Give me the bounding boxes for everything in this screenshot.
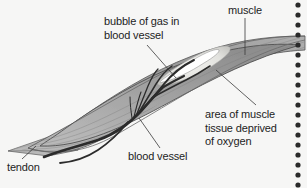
edge-dot — [295, 22, 300, 27]
edge-dot — [295, 82, 300, 87]
label-muscle: muscle — [228, 4, 262, 18]
edge-dot — [295, 162, 300, 167]
figure-page: bubble of gas in blood vessel muscle are… — [0, 0, 307, 188]
edge-dot-rail — [295, 2, 300, 187]
edge-dot — [295, 102, 300, 107]
edge-dot — [295, 52, 300, 57]
edge-dot — [295, 152, 300, 157]
edge-dot — [295, 112, 300, 117]
leader-vessel — [139, 118, 160, 148]
edge-dot — [295, 72, 300, 77]
edge-dot — [295, 42, 300, 47]
label-tendon: tendon — [7, 161, 40, 175]
edge-dot — [295, 132, 300, 137]
edge-dot — [295, 32, 300, 37]
label-area-deprived-of-oxygen: area of muscle tissue deprived of oxygen — [205, 108, 277, 149]
edge-dot — [295, 12, 300, 17]
edge-dot — [295, 172, 300, 177]
edge-dot — [295, 182, 300, 187]
edge-dot — [295, 2, 300, 7]
label-blood-vessel: blood vessel — [128, 150, 187, 164]
edge-dot — [295, 62, 300, 67]
edge-dot — [295, 142, 300, 147]
edge-dot — [295, 122, 300, 127]
edge-dot — [295, 92, 300, 97]
label-bubble-of-gas: bubble of gas in blood vessel — [104, 15, 179, 42]
leader-area — [216, 70, 256, 105]
